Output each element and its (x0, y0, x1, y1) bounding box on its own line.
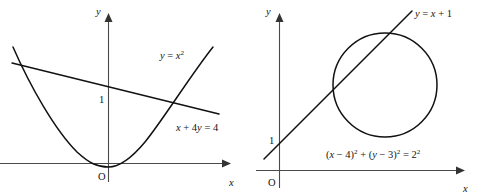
right-origin-label: O (268, 177, 276, 188)
right-y-axis-label: y (265, 6, 271, 17)
right-y-axis-arrowhead (276, 13, 284, 22)
left-x-axis-label: x (228, 177, 234, 188)
right-x-axis-label: x (462, 183, 468, 194)
left-y-axis-arrowhead (105, 13, 113, 22)
left-x-axis-arrowhead (222, 160, 231, 168)
right-circle-curve (333, 33, 437, 137)
right-x-axis-arrowhead (456, 167, 465, 175)
left-origin-label: O (98, 171, 106, 182)
figure-canvas: x y O 1 y = x2 x + 4y = 4 x y O (0, 0, 481, 195)
right-y-tick-1: 1 (269, 135, 274, 146)
left-parabola-label: y = x2 (159, 49, 185, 61)
math-figure: x y O 1 y = x2 x + 4y = 4 x y O (0, 0, 481, 195)
left-line-label: x + 4y = 4 (175, 122, 219, 133)
left-y-tick-1: 1 (99, 94, 104, 105)
right-line-label: y = x + 1 (414, 8, 452, 19)
left-y-axis-label: y (95, 6, 101, 17)
right-circle-label: (x − 4)2 + (y − 3)2 = 22 (326, 148, 421, 161)
left-panel: x y O 1 y = x2 x + 4y = 4 (0, 6, 234, 188)
left-parabola-curve (13, 47, 213, 167)
right-panel: x y O 1 y = x + 1 (x − 4)2 + (y − 3)2 = … (256, 6, 468, 194)
